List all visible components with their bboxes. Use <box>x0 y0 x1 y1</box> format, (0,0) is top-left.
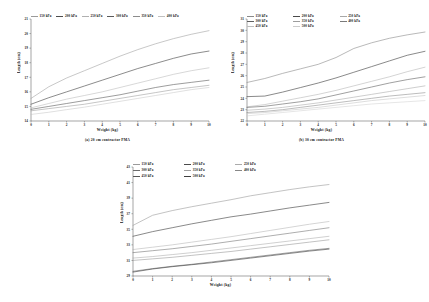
legend-label: 350 kPa <box>141 14 153 18</box>
legend-label: 250 kPa <box>90 14 102 18</box>
caption-b: (b) 30 cm contractor PMA <box>214 138 429 142</box>
x-tick-label: 9 <box>309 278 311 282</box>
legend-item: 150 kPa <box>133 162 176 166</box>
x-tick-label: 10 <box>207 123 211 127</box>
series-line-400-kpa <box>31 87 209 114</box>
x-tick-label: 1 <box>152 278 154 282</box>
y-tick-label: 18 <box>25 61 29 65</box>
figure-contractor-pma: 150 kPa200 kPa250 kPa300 kPa350 kPa400 k… <box>0 0 429 302</box>
x-tick-label: 5 <box>335 123 337 127</box>
x-tick-label: 4 <box>317 123 319 127</box>
legend-swatch <box>133 170 140 171</box>
series-line-200-kpa <box>247 51 425 96</box>
x-tick-label: 6 <box>137 123 139 127</box>
x-tick-label: 7 <box>269 278 271 282</box>
y-tick-label: 30 <box>241 29 245 33</box>
legend-swatch <box>184 170 191 171</box>
series-line-200-kpa <box>31 51 209 104</box>
legend-label: 200 kPa <box>302 14 314 18</box>
legend-swatch <box>247 16 254 17</box>
legend-label: 500 kPa <box>302 24 314 28</box>
legend-item: 350 kPa <box>293 19 333 23</box>
x-tick-label: 0 <box>30 123 32 127</box>
series-line-150-kpa <box>133 185 329 226</box>
legend-swatch <box>235 164 242 165</box>
legend-a: 150 kPa200 kPa250 kPa300 kPa350 kPa400 k… <box>31 14 209 18</box>
y-axis-title-b: Length (cm) <box>231 52 235 73</box>
y-tick-label: 41 <box>127 181 131 185</box>
x-tick-label: 3 <box>191 278 193 282</box>
legend-label: 250 kPa <box>348 14 360 18</box>
series-line-350-kpa <box>31 85 209 111</box>
y-tick-label: 29 <box>241 40 245 44</box>
legend-item: 350 kPa <box>184 168 227 172</box>
y-tick-label: 29 <box>127 274 131 278</box>
legend-item: 450 kPa <box>133 174 176 178</box>
chart-panel-b: 150 kPa200 kPa250 kPa300 kPa350 kPa400 k… <box>214 0 429 151</box>
series-line-500-kpa <box>133 249 329 272</box>
y-axis-title-a: Length (cm) <box>17 52 21 73</box>
legend-label: 500 kPa <box>193 174 205 178</box>
x-axis-title-c: Weight (kg) <box>103 283 338 287</box>
series-line-250-kpa <box>133 222 329 250</box>
x-tick-label: 6 <box>250 278 252 282</box>
series-line-150-kpa <box>31 31 209 99</box>
chart-panel-c: 150 kPa200 kPa250 kPa300 kPa350 kPa400 k… <box>103 150 338 302</box>
y-tick-label: 19 <box>25 46 29 50</box>
x-tick-label: 3 <box>300 123 302 127</box>
series-line-250-kpa <box>31 68 209 108</box>
legend-label: 150 kPa <box>142 162 154 166</box>
y-tick-label: 28 <box>241 51 245 55</box>
legend-item: 250 kPa <box>235 162 278 166</box>
legend-label: 200 kPa <box>65 14 77 18</box>
legend-item: 200 kPa <box>293 14 333 18</box>
legend-item: 450 kPa <box>247 24 287 28</box>
x-tick-label: 8 <box>289 278 291 282</box>
series-line-400-kpa <box>133 240 329 261</box>
series-line-250-kpa <box>247 67 425 107</box>
legend-item: 200 kPa <box>184 162 227 166</box>
x-tick-label: 5 <box>119 123 121 127</box>
legend-label: 300 kPa <box>256 19 268 23</box>
x-tick-label: 7 <box>155 123 157 127</box>
legend-label: 200 kPa <box>193 162 205 166</box>
legend-label: 250 kPa <box>244 162 256 166</box>
legend-item: 350 kPa <box>133 14 153 18</box>
y-tick-label: 21 <box>25 17 29 21</box>
legend-item: 150 kPa <box>31 14 51 18</box>
legend-swatch <box>184 176 191 177</box>
legend-item: 300 kPa <box>107 14 127 18</box>
legend-b: 150 kPa200 kPa250 kPa300 kPa350 kPa400 k… <box>247 14 415 28</box>
y-tick-label: 37 <box>127 212 131 216</box>
legend-label: 400 kPa <box>244 168 256 172</box>
x-tick-label: 1 <box>48 123 50 127</box>
legend-item: 400 kPa <box>340 19 380 23</box>
y-tick-label: 20 <box>25 32 29 36</box>
x-tick-label: 10 <box>423 123 427 127</box>
x-tick-label: 0 <box>132 278 134 282</box>
legend-swatch <box>31 16 38 17</box>
legend-item: 200 kPa <box>56 14 76 18</box>
legend-item: 300 kPa <box>247 19 287 23</box>
legend-item: 300 kPa <box>133 168 176 172</box>
axis-lines-a <box>31 19 209 121</box>
x-tick-label: 6 <box>353 123 355 127</box>
y-tick-label: 17 <box>25 76 29 80</box>
series-line-450-kpa <box>247 96 425 114</box>
legend-swatch <box>293 21 300 22</box>
legend-label: 300 kPa <box>116 14 128 18</box>
x-tick-label: 2 <box>282 123 284 127</box>
x-tick-label: 9 <box>406 123 408 127</box>
legend-swatch <box>247 26 254 27</box>
y-tick-label: 16 <box>25 90 29 94</box>
series-line-150-kpa <box>247 32 425 82</box>
x-tick-label: 9 <box>190 123 192 127</box>
legend-swatch <box>340 16 347 17</box>
y-tick-label: 22 <box>241 119 245 123</box>
y-tick-label: 26 <box>241 74 245 78</box>
legend-swatch <box>340 21 347 22</box>
legend-item: 500 kPa <box>293 24 333 28</box>
series-line-400-kpa <box>247 93 425 113</box>
legend-swatch <box>235 170 242 171</box>
legend-label: 150 kPa <box>40 14 52 18</box>
